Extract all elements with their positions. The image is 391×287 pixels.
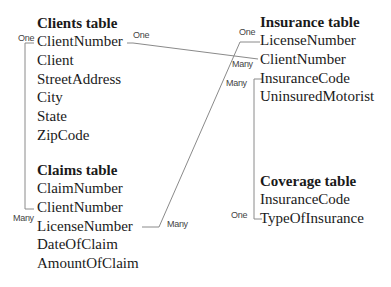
clients-field-state: State <box>37 107 123 126</box>
claims-field-licensenumber: LicenseNumber <box>37 217 139 236</box>
coverage-table: Coverage table InsuranceCode TypeOfInsur… <box>260 172 364 228</box>
label-clients-one-right: One <box>133 30 149 40</box>
clients-table: Clients table ClientNumber Client Street… <box>37 14 123 145</box>
claims-table: Claims table ClaimNumber ClientNumber Li… <box>37 161 139 273</box>
label-insurance-licensenumber-one: One <box>239 27 255 37</box>
claims-table-title: Claims table <box>37 161 139 179</box>
label-coverage-insurancecode-one: One <box>231 210 247 220</box>
label-claims-licensenumber-many: Many <box>167 219 188 229</box>
insurance-field-clientnumber: ClientNumber <box>260 50 374 69</box>
claims-field-dateofclaim: DateOfClaim <box>37 235 139 254</box>
clients-field-zipcode: ZipCode <box>37 126 123 145</box>
label-insurance-clientnumber-many: Many <box>232 59 253 69</box>
insurance-field-licensenumber: LicenseNumber <box>260 31 374 50</box>
insurance-table: Insurance table LicenseNumber ClientNumb… <box>260 13 374 106</box>
insurance-field-insurancecode: InsuranceCode <box>260 69 374 88</box>
claims-field-claimnumber: ClaimNumber <box>37 179 139 198</box>
line-claims-insurance <box>142 42 260 227</box>
label-claims-many: Many <box>13 213 34 223</box>
claims-field-amountofclaim: AmountOfClaim <box>37 254 139 273</box>
clients-table-title: Clients table <box>37 14 123 32</box>
insurance-table-title: Insurance table <box>260 13 374 31</box>
clients-field-client: Client <box>37 51 123 70</box>
coverage-field-insurancecode: InsuranceCode <box>260 190 364 209</box>
label-clients-one-left: One <box>18 33 34 43</box>
claims-field-clientnumber: ClientNumber <box>37 198 139 217</box>
clients-field-clientnumber: ClientNumber <box>37 32 123 51</box>
insurance-field-uninsuredmotorist: UninsuredMotorist <box>260 87 374 106</box>
coverage-table-title: Coverage table <box>260 172 364 190</box>
coverage-field-typeofinsurance: TypeOfInsurance <box>260 209 364 228</box>
clients-field-streetaddress: StreetAddress <box>37 70 123 89</box>
clients-field-city: City <box>37 88 123 107</box>
line-clients-claims <box>25 43 34 209</box>
label-insurance-insurancecode-many: Many <box>226 78 247 88</box>
